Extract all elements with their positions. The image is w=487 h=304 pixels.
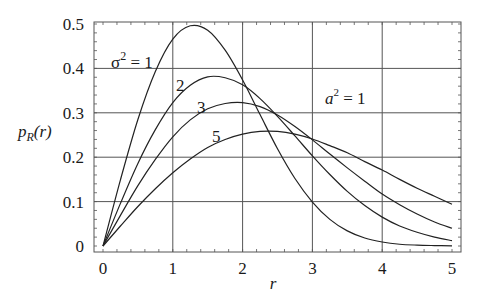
annotation-sigma-1: σ2 = 1 — [111, 49, 153, 72]
x-tick-label: 5 — [448, 259, 457, 278]
y-tick-label: 0.3 — [63, 104, 84, 123]
y-tick-label: 0.1 — [63, 193, 84, 212]
curve-sigma-2 — [103, 76, 452, 246]
x-tick-label: 2 — [238, 259, 247, 278]
annotation-sigma-2: 2 — [176, 76, 185, 95]
annotation-a-squared: a2 = 1 — [325, 86, 366, 108]
y-axis-label: pR(r) — [17, 122, 52, 144]
curve-sigma-1 — [103, 25, 452, 246]
x-axis-label: r — [270, 274, 277, 293]
x-tick-label: 4 — [378, 259, 387, 278]
y-tick-label: 0 — [76, 237, 85, 256]
y-tick-label: 0.4 — [63, 59, 85, 78]
rice-distribution-chart: 012345 00.10.20.30.40.5 r pR(r) σ2 = 1 2… — [0, 0, 487, 304]
curves — [103, 25, 452, 246]
annotation-sigma-5: 5 — [212, 127, 221, 146]
x-tick-label: 1 — [169, 259, 178, 278]
curve-sigma-3 — [103, 102, 452, 246]
x-tick-label: 3 — [308, 259, 317, 278]
x-tick-label: 0 — [99, 259, 108, 278]
x-tick-labels: 012345 — [99, 259, 457, 278]
y-tick-label: 0.2 — [63, 148, 84, 167]
y-tick-labels: 00.10.20.30.40.5 — [63, 15, 85, 256]
y-tick-label: 0.5 — [63, 15, 84, 34]
annotation-sigma-3: 3 — [197, 98, 206, 117]
